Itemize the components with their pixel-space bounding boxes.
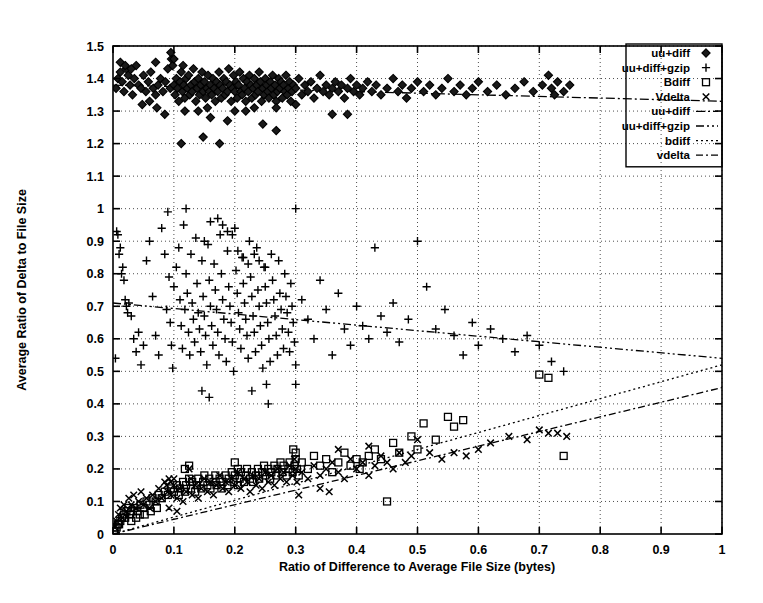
y-tick-label: 0.8	[87, 267, 104, 281]
x-tick-label: 0.2	[226, 543, 243, 557]
y-tick-label: 1.4	[87, 72, 104, 86]
legend-label: uu+diff	[651, 105, 690, 117]
x-tick-label: 0.8	[592, 543, 609, 557]
legend-label: bdiff	[665, 135, 690, 147]
y-tick-label: 1.5	[87, 40, 104, 54]
y-tick-label: 0.1	[87, 495, 104, 509]
x-tick-label: 1	[719, 543, 726, 557]
y-tick-label: 0.7	[87, 300, 104, 314]
x-tick-label: 0.3	[287, 543, 304, 557]
legend-label: Vdelta	[655, 91, 690, 103]
legend-label: uu+diff+gzip	[622, 62, 690, 74]
x-tick-label: 0.4	[348, 543, 365, 557]
y-tick-label: 0.9	[87, 235, 104, 249]
chart-page: 00.10.20.30.40.50.60.70.80.9100.10.20.30…	[0, 0, 763, 603]
y-tick-label: 0.5	[87, 365, 104, 379]
y-tick-label: 1.3	[87, 105, 104, 119]
x-tick-label: 0.5	[409, 543, 426, 557]
y-tick-label: 0.3	[87, 430, 104, 444]
x-tick-label: 0	[110, 543, 117, 557]
y-axis-title: Average Ratio of Delta to File Size	[15, 189, 29, 391]
x-tick-label: 0.7	[531, 543, 548, 557]
y-tick-label: 0.4	[87, 397, 104, 411]
legend-label: Bdiff	[664, 76, 690, 88]
y-tick-label: 1.2	[87, 137, 104, 151]
legend-label: vdelta	[657, 149, 691, 161]
x-tick-label: 0.1	[165, 543, 182, 557]
y-tick-label: 0	[97, 528, 104, 542]
y-tick-label: 1	[97, 202, 104, 216]
legend-label: uu+diff+gzip	[622, 120, 690, 132]
x-tick-label: 0.6	[470, 543, 487, 557]
y-tick-label: 0.6	[87, 332, 104, 346]
x-tick-label: 0.9	[652, 543, 669, 557]
scatter-plot: 00.10.20.30.40.50.60.70.80.9100.10.20.30…	[0, 0, 763, 603]
legend-label: uu+diff	[651, 47, 690, 59]
y-tick-label: 1.1	[87, 170, 104, 184]
y-tick-label: 0.2	[87, 462, 104, 476]
x-axis-title: Ratio of Difference to Average File Size…	[279, 560, 555, 574]
